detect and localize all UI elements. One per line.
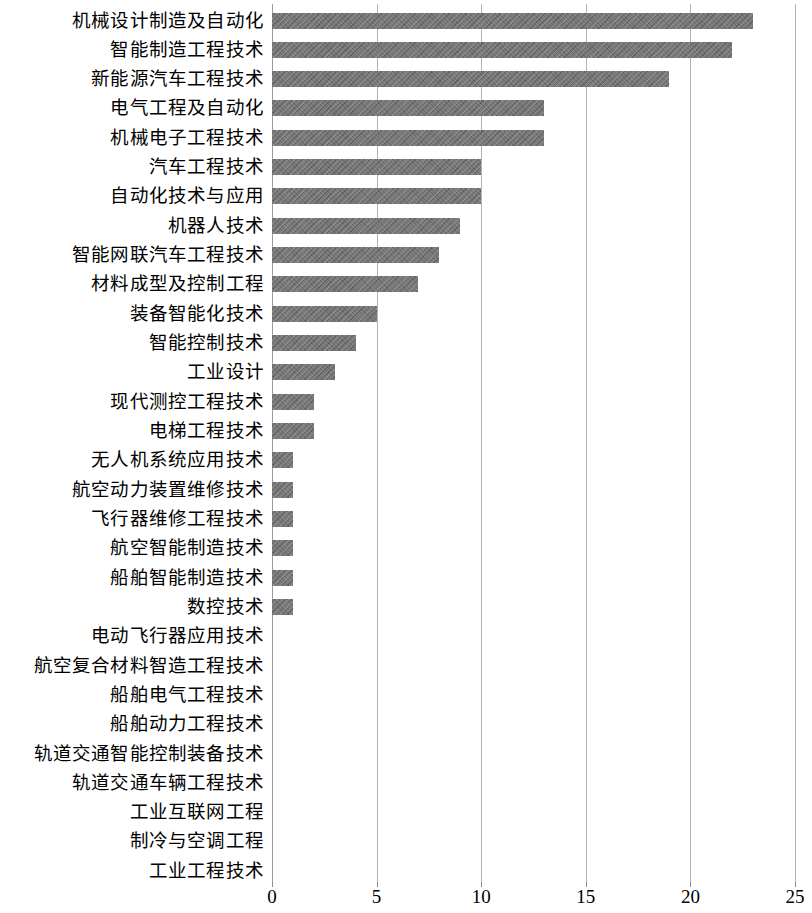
bar [272,247,439,263]
bar [272,394,314,410]
x-axis-tick-labels: 0510152025 [0,886,812,913]
category-label: 自动化技术与应用 [110,187,264,206]
category-label: 船舶智能制造技术 [110,568,264,587]
category-label: 机器人技术 [168,216,264,235]
bar [272,188,481,204]
horizontal-bar-chart: 机械设计制造及自动化智能制造工程技术新能源汽车工程技术电气工程及自动化机械电子工… [0,0,812,913]
bar [272,13,753,29]
gridline-15 [586,4,587,882]
bar [272,482,293,498]
gridline-20 [690,4,691,882]
category-label: 工业工程技术 [149,862,264,881]
gridline-25 [795,4,796,882]
bar [272,540,293,556]
bar [272,218,460,234]
x-tick-label: 25 [786,886,805,909]
category-label: 现代测控工程技术 [110,392,264,411]
x-tick-label: 15 [576,886,595,909]
category-label: 材料成型及控制工程 [91,275,264,294]
category-label: 船舶动力工程技术 [110,715,264,734]
category-label: 航空复合材料智造工程技术 [34,656,264,675]
bar [272,452,293,468]
category-label: 无人机系统应用技术 [91,451,264,470]
category-label: 装备智能化技术 [130,304,264,323]
bar [272,335,356,351]
category-label: 轨道交通车辆工程技术 [72,774,264,793]
category-label: 船舶电气工程技术 [110,686,264,705]
bar [272,159,481,175]
plot-area [272,4,795,882]
category-label: 汽车工程技术 [149,158,264,177]
bar [272,130,544,146]
category-label: 工业设计 [187,363,264,382]
category-label: 轨道交通智能控制装备技术 [34,744,264,763]
x-tick-label: 0 [267,886,277,909]
category-label: 智能制造工程技术 [110,41,264,60]
bar [272,423,314,439]
category-label: 电梯工程技术 [149,422,264,441]
category-label: 工业互联网工程 [130,803,264,822]
bar [272,71,669,87]
category-label: 制冷与空调工程 [130,832,264,851]
category-label: 新能源汽车工程技术 [91,70,264,89]
category-label: 机械设计制造及自动化 [72,11,264,30]
category-label: 电气工程及自动化 [110,99,264,118]
x-tick-label: 5 [372,886,382,909]
category-label: 电动飞行器应用技术 [91,627,264,646]
bar [272,100,544,116]
category-label: 航空动力装置维修技术 [72,480,264,499]
bar [272,599,293,615]
bar [272,511,293,527]
x-tick-label: 10 [472,886,491,909]
category-label: 智能网联汽车工程技术 [72,246,264,265]
bar [272,42,732,58]
bar [272,276,418,292]
category-axis-labels: 机械设计制造及自动化智能制造工程技术新能源汽车工程技术电气工程及自动化机械电子工… [0,0,268,882]
x-tick-label: 20 [681,886,700,909]
bar [272,364,335,380]
bar [272,306,377,322]
category-label: 飞行器维修工程技术 [91,510,264,529]
bar [272,570,293,586]
category-label: 航空智能制造技术 [110,539,264,558]
category-label: 数控技术 [187,598,264,617]
category-label: 智能控制技术 [149,334,264,353]
category-label: 机械电子工程技术 [110,129,264,148]
